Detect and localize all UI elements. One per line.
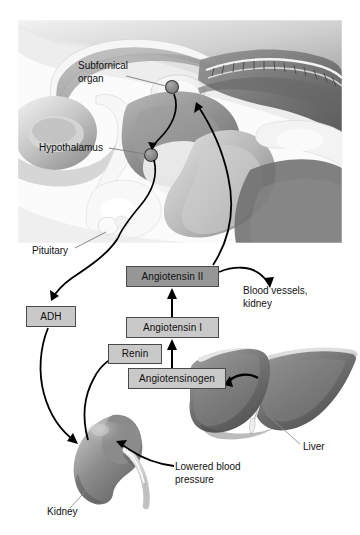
arrow-angiotensin1-to-angiotensin2: [167, 288, 177, 317]
flow-box-angiotensinogen-label: Angiotensinogen: [139, 374, 215, 384]
label-liver: Liver: [303, 441, 325, 454]
label-hypothalamus: Hypothalamus: [39, 142, 103, 155]
flow-box-angiotensin-2[interactable]: Angiotensin II: [126, 266, 219, 287]
arrow-angiotensin2-to-brain: [194, 102, 231, 265]
label-subfornical-organ: Subfornical organ: [78, 60, 128, 85]
flow-box-renin[interactable]: Renin: [108, 344, 162, 364]
label-pituitary: Pituitary: [32, 245, 68, 258]
flow-box-angiotensin-1[interactable]: Angiotensin I: [126, 317, 219, 338]
label-lowered-blood-pressure: Lowered blood pressure: [175, 461, 241, 486]
arrow-angiotensinogen-to-angiotensin1: [167, 339, 177, 368]
flow-box-angiotensin-2-label: Angiotensin II: [142, 272, 204, 282]
arrow-adh-to-kidney: [41, 328, 78, 444]
flow-box-angiotensin-1-label: Angiotensin I: [143, 323, 202, 333]
flow-box-angiotensinogen[interactable]: Angiotensinogen: [128, 368, 226, 389]
label-blood-vessels-kidney: Blood vessels, kidney: [243, 285, 307, 310]
renin-angiotensin-diagram: Angiotensin II Angiotensin I Renin Angio…: [0, 0, 360, 535]
flow-box-adh[interactable]: ADH: [26, 306, 76, 327]
label-kidney: Kidney: [47, 506, 78, 519]
flow-box-adh-label: ADH: [40, 312, 61, 322]
flow-box-renin-label: Renin: [122, 349, 149, 359]
liver-illustration: [190, 348, 358, 440]
